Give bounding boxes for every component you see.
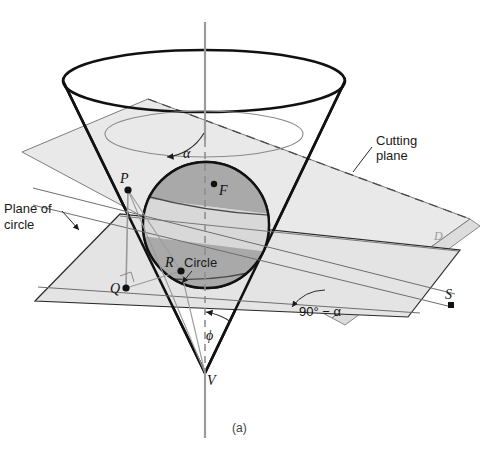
point-Q-dot — [122, 284, 129, 291]
point-P-label: P — [119, 171, 129, 186]
angle-alpha-label: α — [183, 146, 191, 161]
point-Q-label: Q — [110, 281, 120, 296]
point-V-label: V — [207, 373, 217, 388]
cutting-plane-label-line1: Cutting — [376, 133, 417, 148]
angle-phi-label: ϕ — [206, 328, 213, 343]
plane-of-circle-label-line2: circle — [4, 217, 34, 232]
figure-container: α ϕ 90° − α P Q R F S — [0, 0, 498, 449]
point-F-dot — [211, 181, 217, 187]
angle-ninety-minus-alpha-label: 90° − α — [299, 304, 341, 319]
conic-section-diagram: α ϕ 90° − α P Q R F S — [0, 0, 498, 449]
callout-cutting-plane: Cutting plane — [353, 133, 417, 172]
point-R-label: R — [164, 255, 174, 270]
circle-label: Circle — [184, 255, 217, 270]
cutting-plane-leader-line — [353, 147, 372, 172]
point-P-dot — [124, 186, 131, 193]
point-S-label: S — [445, 287, 452, 302]
point-F-label: F — [218, 183, 228, 198]
callout-plane-of-circle: Plane of circle — [4, 201, 79, 232]
plane-of-circle-label-line1: Plane of — [4, 201, 52, 216]
figure-caption: (a) — [232, 421, 247, 435]
cutting-plane-label-line2: plane — [376, 148, 408, 163]
angle-phi-arc — [206, 312, 231, 322]
point-D-label: D — [433, 229, 443, 243]
point-S-dot — [448, 302, 454, 308]
